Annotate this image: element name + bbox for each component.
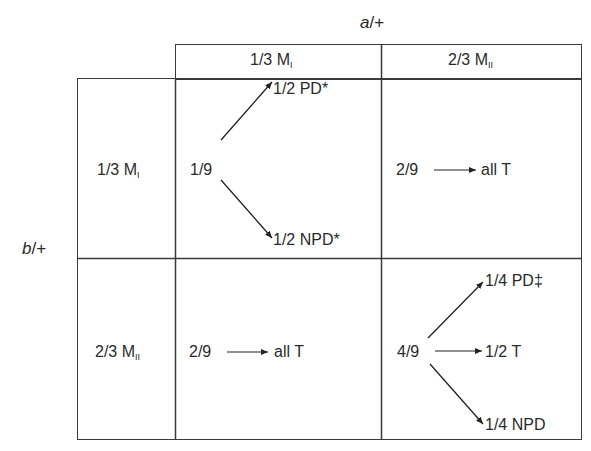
cell-r1c1-outcome-2: 1/2 NPD*: [273, 231, 340, 249]
row-header-subscript: I: [137, 170, 140, 180]
arrow-icon: [428, 282, 483, 424]
grid-lines: [0, 0, 591, 451]
row-header-1: 1/3 MI: [97, 161, 140, 184]
cell-r2c2-outcome-3: 1/4 NPD: [485, 416, 545, 434]
row-header-subscript: II: [135, 352, 140, 362]
row-header-2: 2/3 MII: [95, 343, 140, 366]
column-header-1: 1/3 MI: [250, 51, 293, 74]
cell-r2c2-outcome-2: 1/2 T: [485, 343, 521, 361]
row-header-label: M: [122, 343, 135, 360]
column-header-fraction: 2/3: [448, 51, 470, 68]
cell-r2c2-outcome-1: 1/4 PD‡: [485, 272, 543, 290]
column-header-label: M: [277, 51, 290, 68]
cell-r1c1-source: 1/9: [190, 161, 212, 179]
row-header-label: M: [124, 161, 137, 178]
column-header-subscript: I: [290, 60, 293, 70]
column-header-2: 2/3 MII: [448, 51, 493, 74]
column-header-label: M: [475, 51, 488, 68]
column-header-subscript: II: [488, 60, 493, 70]
column-header-fraction: 1/3: [250, 51, 272, 68]
cell-r2c1-outcome-1: all T: [274, 343, 304, 361]
row-header-fraction: 1/3: [97, 161, 119, 178]
cell-r1c2-outcome-1: all T: [481, 161, 511, 179]
cell-r2c1-source: 2/9: [189, 343, 211, 361]
cell-r2c2-source: 4/9: [397, 343, 419, 361]
cell-r1c1-outcome-1: 1/2 PD*: [273, 80, 328, 98]
arrow-icon: [221, 82, 272, 238]
cell-r1c2-source: 2/9: [396, 161, 418, 179]
row-header-fraction: 2/3: [95, 343, 117, 360]
